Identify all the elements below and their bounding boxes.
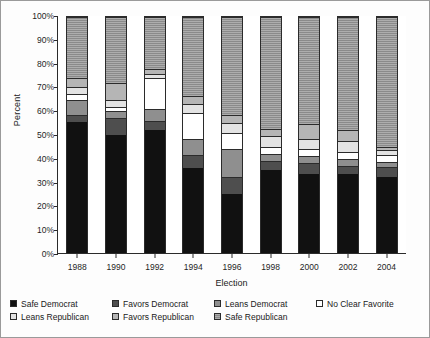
legend-item-leans-democrat[interactable]: Leans Democrat	[214, 297, 316, 310]
legend-swatch-icon	[214, 300, 221, 307]
bar-segment	[145, 130, 165, 253]
x-axis-tick-mark	[270, 254, 271, 258]
bar-segment	[299, 17, 319, 124]
legend-item-safe-republican[interactable]: Safe Republican	[214, 310, 287, 323]
legend-item-favors-republican[interactable]: Favors Republican	[112, 310, 214, 323]
legend-swatch-icon	[316, 300, 323, 307]
bar-segment	[67, 78, 87, 86]
legend-item-favors-democrat[interactable]: Favors Democrat	[112, 297, 214, 310]
x-axis-tick-mark	[231, 254, 232, 258]
legend-item-label: Leans Democrat	[225, 299, 287, 309]
bar-1990[interactable]	[105, 16, 127, 253]
legend-swatch-icon	[112, 300, 119, 307]
bar-segment	[377, 177, 397, 253]
legend-swatch-icon	[10, 313, 17, 320]
x-axis-tick-label: 2004	[365, 262, 409, 272]
legend-item-label: Favors Democrat	[123, 299, 188, 309]
bar-segment	[222, 123, 242, 132]
legend-item-safe-democrat[interactable]: Safe Democrat	[10, 297, 112, 310]
x-axis-tick-label: 1988	[55, 262, 99, 272]
bar-segment	[183, 168, 203, 253]
y-axis-tick-label: 50%	[2, 131, 54, 140]
bar-segment	[106, 135, 126, 253]
bar-segment	[338, 141, 358, 152]
legend-swatch-icon	[10, 300, 17, 307]
bar-segment	[377, 155, 397, 162]
legend-swatch-icon	[214, 313, 221, 320]
y-axis-tick-label: 20%	[2, 202, 54, 211]
bar-segment	[338, 174, 358, 253]
bar-segment	[67, 122, 87, 253]
bar-segment	[183, 17, 203, 96]
bar-segment	[145, 78, 165, 109]
legend-item-label: Safe Democrat	[21, 299, 78, 309]
y-axis-tick-label: 80%	[2, 59, 54, 68]
bar-segment	[261, 136, 281, 147]
bar-1998[interactable]	[260, 16, 282, 253]
x-axis-tick-mark	[115, 254, 116, 258]
y-axis-tick-label: 100%	[2, 12, 54, 21]
bar-segment	[222, 177, 242, 194]
bar-segment	[299, 124, 319, 138]
bar-segment	[338, 166, 358, 174]
bar-segment	[222, 149, 242, 177]
chart-legend: Safe DemocratFavors DemocratLeans Democr…	[10, 297, 422, 323]
bar-segment	[145, 17, 165, 69]
x-axis-title: Election	[57, 278, 406, 288]
bar-segment	[183, 139, 203, 156]
bar-segment	[222, 133, 242, 150]
bar-segment	[106, 17, 126, 83]
x-axis-tick-label: 1992	[133, 262, 177, 272]
x-axis: 198819901992199419961998200020022004	[57, 254, 406, 255]
y-axis-tick-label: 40%	[2, 155, 54, 164]
bar-2004[interactable]	[376, 16, 398, 253]
bar-segment	[299, 156, 319, 163]
bar-segment	[222, 194, 242, 253]
legend-item-label: No Clear Favorite	[327, 299, 394, 309]
bar-segment	[67, 115, 87, 122]
legend-item-leans-republican[interactable]: Leans Republican	[10, 310, 112, 323]
bar-1996[interactable]	[221, 16, 243, 253]
bar-segment	[299, 139, 319, 150]
bar-segment	[183, 104, 203, 112]
x-axis-tick-label: 1998	[249, 262, 293, 272]
y-axis-tick-label: 90%	[2, 36, 54, 45]
legend-swatch-icon	[112, 313, 119, 320]
bar-segment	[67, 87, 87, 94]
y-axis-tick-label: 30%	[2, 178, 54, 187]
x-axis-tick-mark	[154, 254, 155, 258]
bar-segment	[106, 118, 126, 135]
bar-segment	[261, 170, 281, 253]
legend-item-no-clear-favorite[interactable]: No Clear Favorite	[316, 297, 422, 310]
plot-area: 0%10%20%30%40%50%60%70%80%90%100%	[57, 16, 406, 254]
y-axis-tick-label: 70%	[2, 83, 54, 92]
bar-segment	[145, 109, 165, 121]
bar-segment	[106, 100, 126, 107]
chart-figure: Percent 0%10%20%30%40%50%60%70%80%90%100…	[0, 0, 430, 338]
bar-segment	[222, 17, 242, 115]
x-axis-tick-label: 2000	[287, 262, 331, 272]
bar-segment	[67, 17, 87, 78]
bar-segment	[377, 17, 397, 147]
bar-segment	[261, 154, 281, 161]
y-axis-tick-label: 60%	[2, 107, 54, 116]
bar-segment	[338, 17, 358, 130]
x-axis-tick-label: 1996	[210, 262, 254, 272]
bar-segment	[261, 129, 281, 136]
bar-segment	[67, 100, 87, 115]
bar-group	[58, 16, 406, 253]
bar-2002[interactable]	[337, 16, 359, 253]
bar-segment	[145, 121, 165, 130]
x-axis-tick-label: 1990	[94, 262, 138, 272]
bar-2000[interactable]	[298, 16, 320, 253]
bar-1994[interactable]	[182, 16, 204, 253]
bar-segment	[299, 174, 319, 253]
y-axis-tick-label: 0%	[2, 250, 54, 259]
x-axis-tick-mark	[347, 254, 348, 258]
bar-1988[interactable]	[66, 16, 88, 253]
bar-segment	[183, 96, 203, 104]
bar-segment	[338, 152, 358, 159]
bar-1992[interactable]	[144, 16, 166, 253]
bar-segment	[261, 147, 281, 154]
bar-segment	[338, 130, 358, 141]
